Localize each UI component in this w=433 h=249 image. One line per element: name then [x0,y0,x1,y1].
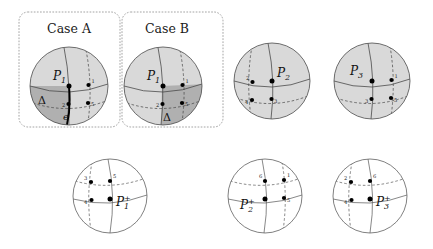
vertex-3 [89,180,93,184]
label-num-6: 6 [373,173,376,179]
sphere-p3: P 3 1 3 5 [334,43,410,119]
vertex-6 [263,179,267,183]
vertex-5 [389,96,393,100]
vertex-2 [160,102,164,106]
sphere-p1-plus: P 1 + 5 3 4 [73,159,147,233]
vertex-2 [66,102,70,106]
vertex-1 [282,178,286,182]
sphere-p3-plus: P 3 + 6 2 4 [333,159,407,233]
case-b-label: Case B [145,21,189,36]
label-num-3: 3 [84,175,87,181]
label-p2plus-sub: 2 [247,205,253,214]
case-a-label: Case A [47,21,92,36]
vertex-2 [250,80,254,84]
label-num-3: 3 [365,98,368,104]
sphere-case-b: P 1 1 2 5 Δ [124,47,205,128]
vertex-5 [282,196,286,200]
vertex-center [67,84,72,89]
label-num-3: 3 [274,98,277,104]
label-p3-sub: 3 [358,71,363,80]
label-p1plus-sup: + [124,194,131,203]
label-num-1: 1 [92,78,95,84]
label-num-6: 6 [259,173,262,179]
label-num-5: 5 [394,97,397,103]
label-num-1: 1 [287,172,290,178]
vertex-center [161,84,166,89]
label-num-5: 5 [287,197,290,203]
label-p1plus-sub: 1 [124,202,129,211]
label-num-2: 2 [156,102,159,108]
vertex-3 [269,97,273,101]
label-p3plus-sup: + [384,194,391,203]
sphere-p2: P 2 2 3 4 [234,43,310,119]
label-p1-sub: 1 [61,76,66,85]
vertex-center [108,197,113,202]
vertex-1 [389,78,393,82]
vertex-1 [180,83,184,87]
vertex-1 [86,83,90,87]
label-p2-sub: 2 [284,73,290,82]
label-num-5: 5 [91,101,94,107]
sphere-case-a: P 1 1 2 5 Δ e [26,47,108,128]
label-p2plus-sup: + [248,197,255,206]
figure-canvas: Case A P 1 1 2 5 Δ e [0,0,433,249]
vertex-4 [349,198,353,202]
vertex-2 [349,180,353,184]
vertex-4 [250,98,254,102]
label-num-1: 1 [395,73,398,79]
vertex-center [370,79,375,84]
label-edge-e: e [63,111,69,122]
vertex-5 [86,101,90,105]
vertex-6 [368,179,372,183]
label-num-5: 5 [185,101,188,107]
label-delta-b: Δ [163,111,171,124]
vertex-center [263,197,268,202]
vertex-center [270,79,275,84]
label-p3plus-sub: 3 [384,202,389,211]
label-num-2: 2 [246,75,249,81]
label-num-2: 2 [344,175,347,181]
vertex-5 [108,179,112,183]
label-num-1: 1 [186,78,189,84]
vertex-5 [180,101,184,105]
sphere-p2-plus: P 2 + 6 1 5 [228,159,302,233]
vertex-3 [369,97,373,101]
label-num-2: 2 [62,102,65,108]
label-delta-a: Δ [38,94,46,107]
label-num-5: 5 [113,173,116,179]
vertex-center [368,197,373,202]
label-p1-sub: 1 [155,76,160,85]
vertex-4 [89,198,93,202]
spheres-diagram: Case A P 1 1 2 5 Δ e [0,0,433,249]
